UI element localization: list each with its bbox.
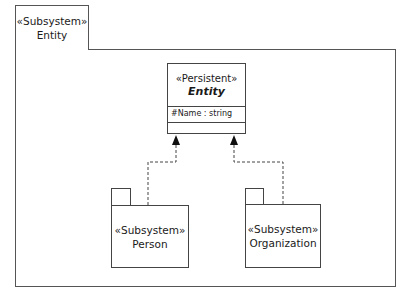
organization-package[interactable]: «Subsystem» Organization bbox=[245, 204, 321, 268]
class-attributes-compartment: #Name : string bbox=[168, 107, 245, 123]
class-name-compartment: «Persistent» Entity bbox=[168, 64, 245, 107]
person-package-tab bbox=[111, 188, 131, 206]
class-stereotype: «Persistent» bbox=[176, 72, 238, 85]
person-package[interactable]: «Subsystem» Person bbox=[111, 205, 189, 268]
class-name: Entity bbox=[188, 85, 225, 98]
class-attribute: #Name : string bbox=[171, 109, 232, 118]
arrowhead-icon bbox=[172, 135, 180, 145]
dependency-connectors bbox=[0, 0, 406, 296]
package-stereotype: «Subsystem» bbox=[248, 222, 319, 236]
package-name: Organization bbox=[249, 236, 316, 250]
organization-package-tab bbox=[245, 188, 264, 205]
arrowhead-icon bbox=[230, 135, 238, 145]
dependency-person-entity[interactable] bbox=[148, 135, 180, 205]
package-name: Person bbox=[132, 237, 167, 251]
package-stereotype: «Subsystem» bbox=[115, 223, 186, 237]
entity-class[interactable]: «Persistent» Entity #Name : string bbox=[167, 63, 246, 134]
class-operations-compartment bbox=[168, 123, 245, 135]
